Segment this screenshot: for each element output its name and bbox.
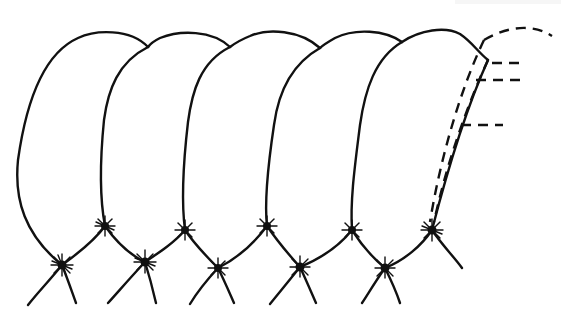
dashed-layers xyxy=(430,28,552,222)
junction-star-icon xyxy=(208,258,228,278)
junction-star-icon xyxy=(95,216,115,236)
junction-star-icon xyxy=(342,220,362,240)
junction-star-icon xyxy=(175,220,195,240)
junction-star-icon xyxy=(51,254,73,276)
segment-1 xyxy=(17,32,148,305)
junction-star-icon xyxy=(290,256,310,277)
segmented-body-diagram xyxy=(0,0,561,322)
segment-4 xyxy=(266,32,402,304)
segment-5 xyxy=(352,30,488,303)
junction-star-icon xyxy=(421,219,443,241)
junction-star-icon xyxy=(257,216,277,236)
segment-2 xyxy=(101,33,230,303)
junction-star-icon xyxy=(375,257,395,278)
junction-star-icon xyxy=(134,250,156,273)
diagram-canvas xyxy=(0,0,561,322)
top-edge-band xyxy=(455,0,561,4)
